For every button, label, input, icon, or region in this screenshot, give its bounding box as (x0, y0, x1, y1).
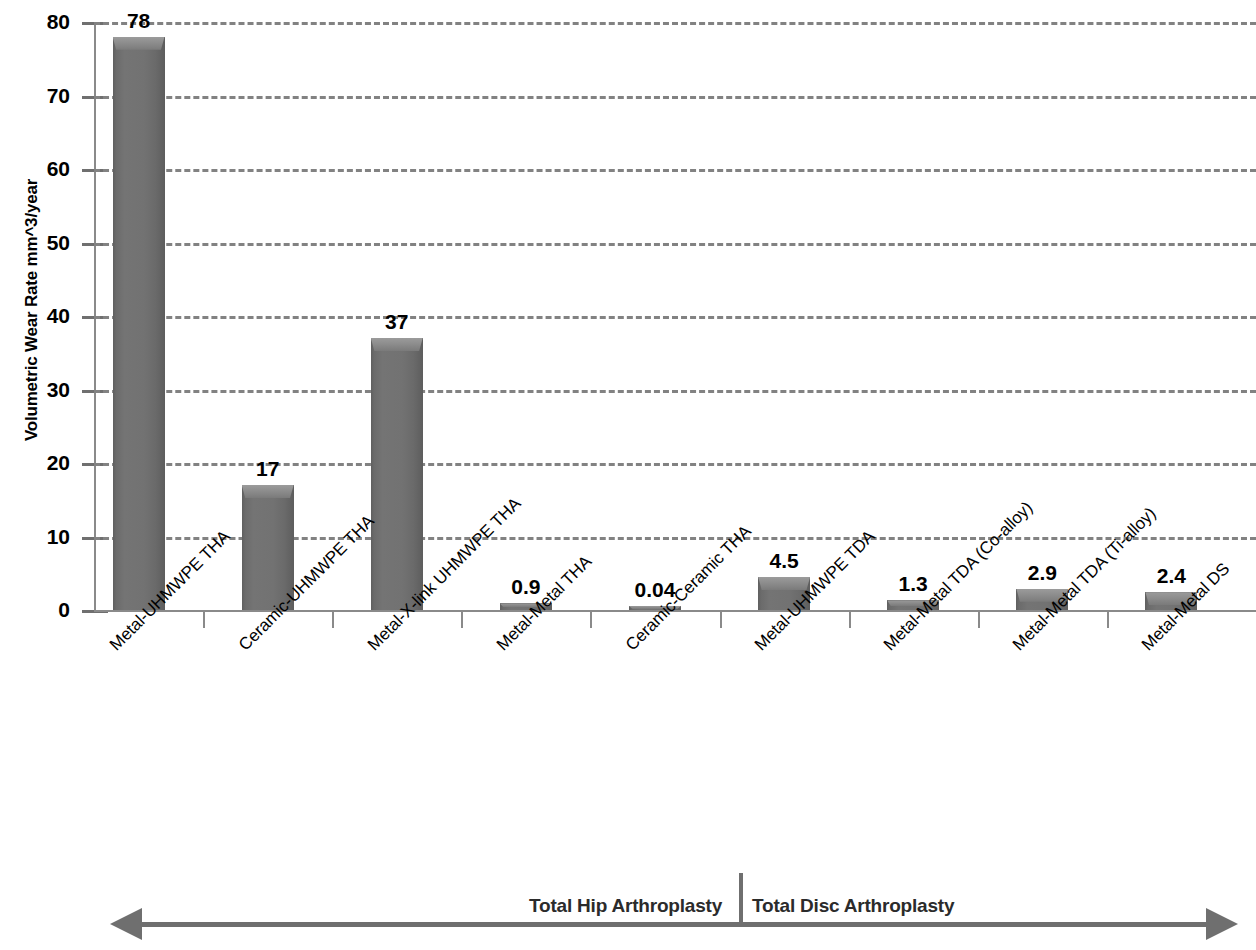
bar (113, 37, 165, 610)
y-axis-tick-label: 30 (10, 379, 70, 400)
bar-top-face (371, 338, 423, 351)
gridline (94, 22, 1256, 25)
y-axis-tick-label: 10 (10, 526, 70, 547)
bar-chart: Volumetric Wear Rate mm^3/year 807060504… (0, 0, 1256, 950)
bar-top-face (113, 37, 165, 50)
x-axis-tick (849, 611, 851, 628)
bar-value-label: 78 (83, 10, 195, 31)
right-arrow-icon (1206, 908, 1238, 940)
x-axis-tick (461, 611, 463, 628)
group-divider (739, 873, 743, 927)
group-label-total-hip-arthroplasty: Total Hip Arthroplasty (529, 895, 722, 917)
x-axis-tick (978, 611, 980, 628)
gridline (94, 316, 1256, 319)
gridline (94, 169, 1256, 172)
x-axis-tick (590, 611, 592, 628)
y-axis-tick-label: 70 (10, 85, 70, 106)
bar (371, 338, 423, 610)
x-axis-tick (203, 611, 205, 628)
y-axis-tick-label: 60 (10, 158, 70, 179)
plot-area: 7817370.90.044.51.32.92.4 (94, 22, 1256, 610)
y-axis-tick-label: 80 (10, 11, 70, 32)
x-axis-tick (1107, 611, 1109, 628)
y-axis-tick-label: 0 (10, 599, 70, 620)
y-axis-tick-label: 40 (10, 305, 70, 326)
bar-value-label: 37 (341, 311, 453, 332)
bar-top-face (242, 485, 294, 498)
y-axis-tick-label: 20 (10, 452, 70, 473)
gridline (94, 96, 1256, 99)
group-axis-line (137, 922, 1210, 927)
x-axis-tick (332, 611, 334, 628)
y-axis-tick-label: 50 (10, 232, 70, 253)
gridline (94, 390, 1256, 393)
gridline (94, 243, 1256, 246)
x-axis-tick (720, 611, 722, 628)
bar-value-label: 17 (212, 458, 324, 479)
group-label-total-disc-arthroplasty: Total Disc Arthroplasty (752, 895, 954, 917)
